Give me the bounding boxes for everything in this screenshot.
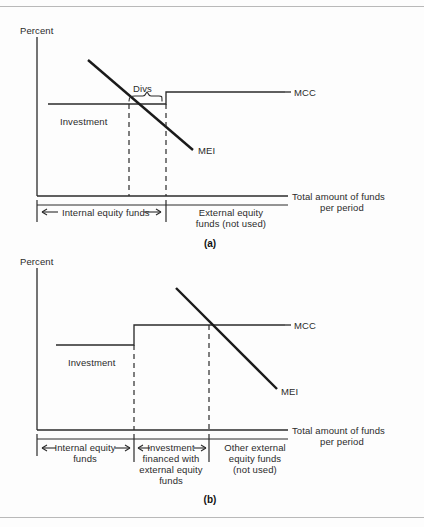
panel-b-x-axis-label-line2: per period [320,436,364,447]
panel-a-investment-label: Investment [60,116,107,127]
panel-b-bracket-label-investment-financed-line4: funds [132,475,210,486]
panel-a-bracket-label-internal-equity-funds: Internal equity funds [62,207,150,218]
panel-a-mcc-curve [48,92,285,104]
figure-page: Percent Investment Divs MCC MEI Total am… [0,0,424,527]
panel-b-mcc-label: MCC [294,320,316,331]
panel-b-x-axis-label-line1: Total amount of funds [292,425,385,436]
panel-a-caption: (a) [180,238,240,249]
panel-b-bracket-label-investment-financed-line1: Investment [138,442,204,453]
panel-a-bracket-label-external-equity-funds-line1: External equity [176,207,286,218]
panel-a-mcc-label: MCC [294,87,316,98]
panel-a-x-axis-label-line1: Total amount of funds [292,191,385,202]
panel-a-y-axis-label: Percent [20,25,53,36]
panel-b-mei-label: MEI [281,386,298,397]
panel-b-bracket-label-internal-equity-line1: Internal equity [47,442,123,453]
panel-a-graphics [37,37,291,222]
panel-a-divs-label: Divs [133,83,152,94]
panel-b-investment-label: Investment [68,357,115,368]
panel-b-bracket-label-other-external-line3: (not used) [213,464,297,475]
panel-a-x-axis-label-line2: per period [320,202,364,213]
panel-a-bracket-label-external-equity-funds-line2: funds (not used) [176,218,286,229]
panel-b-mei-curve [176,288,277,389]
panel-b-bracket-label-internal-equity-line2: funds [47,453,123,464]
panel-b-bracket-label-other-external-line1: Other external [213,442,297,453]
panel-a-mei-curve [88,60,193,150]
panel-b-bracket-label-investment-financed-line2: financed with [132,453,210,464]
panel-b-caption: (b) [180,494,240,505]
panel-b-mcc-curve [56,325,285,345]
panel-b-bracket-label-other-external-line2: equity funds [213,453,297,464]
panel-b-y-axis-label: Percent [20,256,53,267]
panel-a-mei-label: MEI [198,145,215,156]
panel-b-bracket-label-investment-financed-line3: external equity [130,464,212,475]
